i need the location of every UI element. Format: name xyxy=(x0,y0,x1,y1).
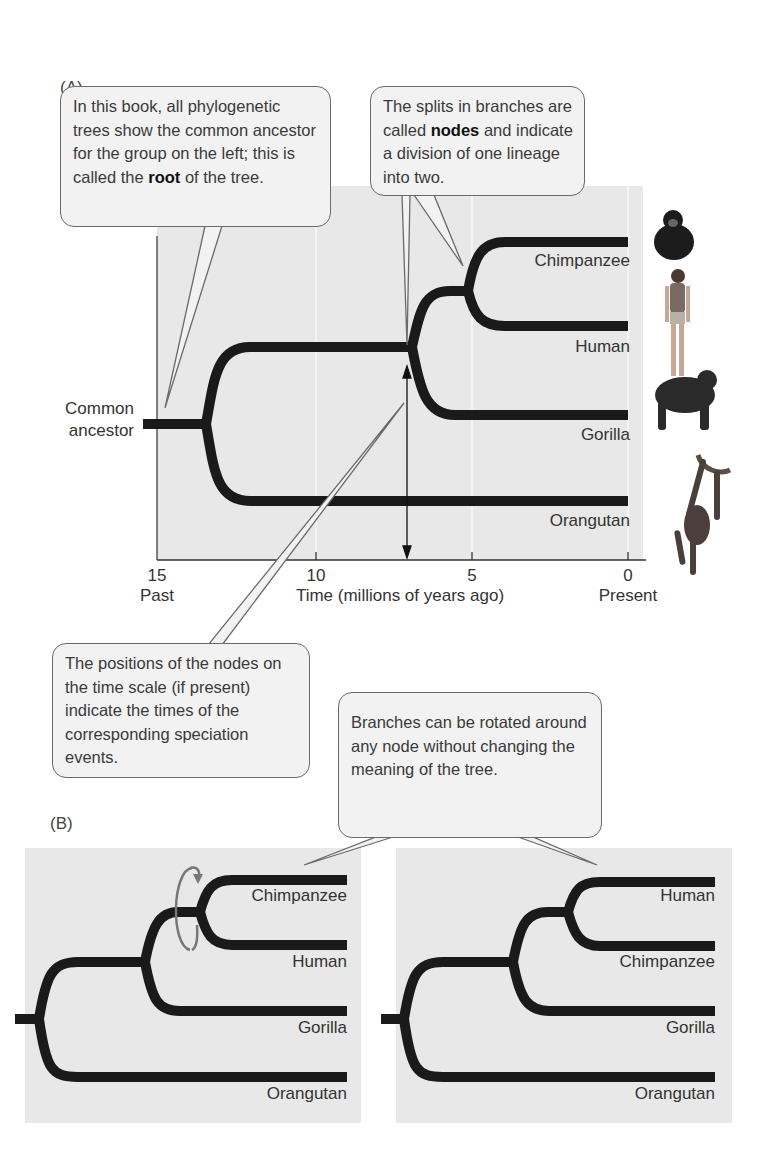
human-image xyxy=(665,269,690,376)
tick-label: 0 xyxy=(588,566,668,586)
b-right-taxon-human: Human xyxy=(660,886,715,906)
past-label: Past xyxy=(127,586,187,606)
tick-label: 15 xyxy=(127,566,187,586)
b-right-taxon-chimpanzee: Chimpanzee xyxy=(620,952,715,972)
axis-tick-15: 15 Past xyxy=(127,566,187,606)
b-right-taxon-gorilla: Gorilla xyxy=(666,1018,715,1038)
b-left-taxon-gorilla: Gorilla xyxy=(298,1018,347,1038)
callout-nodes: The splits in branches are called nodes … xyxy=(370,86,585,196)
common-ancestor-label-line2: ancestor xyxy=(44,420,134,442)
axis-tick-0: 0 Present xyxy=(588,566,668,606)
present-label: Present xyxy=(588,586,668,606)
b-left-taxon-human: Human xyxy=(292,952,347,972)
tree-b-left xyxy=(15,880,347,1077)
b-left-taxon-orangutan: Orangutan xyxy=(267,1084,347,1104)
callout-nodes-keyword: nodes xyxy=(431,121,480,139)
gorilla-image xyxy=(655,370,717,430)
axis-tick-5: 5 xyxy=(452,566,492,586)
callout-rotation: Branches can be rotated around any node … xyxy=(338,692,602,838)
node-time-arrow xyxy=(403,366,411,558)
chimpanzee-image xyxy=(654,210,694,260)
axis-tick-10: 10 xyxy=(296,566,336,586)
common-ancestor-label-line1: Common xyxy=(44,398,134,420)
taxon-label-chimpanzee: Chimpanzee xyxy=(535,251,630,271)
tree-a xyxy=(143,242,628,501)
taxon-label-human: Human xyxy=(575,337,630,357)
callout-root-keyword: root xyxy=(148,168,180,186)
tree-b-right xyxy=(381,882,715,1077)
callout-times: The positions of the nodes on the time s… xyxy=(52,643,310,778)
callout-root-text-end: of the tree. xyxy=(180,168,263,186)
orangutan-image xyxy=(674,455,730,575)
taxon-label-gorilla: Gorilla xyxy=(581,425,630,445)
time-axis xyxy=(157,552,646,560)
b-right-taxon-orangutan: Orangutan xyxy=(635,1084,715,1104)
panel-b-label: (B) xyxy=(50,814,73,834)
common-ancestor-label: Common ancestor xyxy=(44,398,134,442)
b-left-taxon-chimpanzee: Chimpanzee xyxy=(252,886,347,906)
taxon-label-orangutan: Orangutan xyxy=(550,511,630,531)
axis-title: Time (millions of years ago) xyxy=(270,586,530,606)
callout-root: In this book, all phylogenetic trees sho… xyxy=(60,86,331,227)
